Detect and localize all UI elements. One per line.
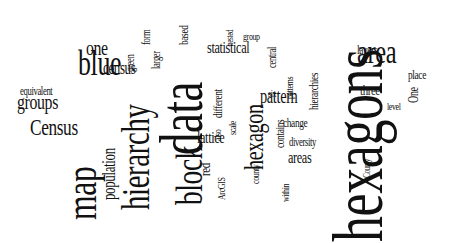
word-layers: layers — [357, 43, 377, 56]
word-county: County — [362, 159, 372, 178]
word-level: level — [387, 101, 401, 112]
word-scale: scale — [227, 121, 238, 135]
word-hierarchy: hierarchy — [116, 105, 156, 210]
word-different: different — [211, 89, 224, 118]
word-cloud: hexagonsdatamaphierarchyblockareabluehex… — [0, 0, 453, 243]
word-diversity: diversity — [289, 136, 316, 148]
word-map: map — [60, 167, 104, 220]
word-county: county — [250, 165, 261, 184]
word-form: form — [140, 30, 152, 45]
word-census: Census — [30, 115, 78, 139]
word-areas: areas — [288, 149, 311, 166]
word-larger: larger — [150, 51, 162, 69]
word-within: within — [280, 184, 291, 202]
word-group: group — [243, 31, 260, 42]
word-hierarchies: hierarchies — [307, 73, 320, 110]
word-six: six — [268, 88, 276, 99]
word-central: central — [266, 47, 278, 68]
word-arcgis: ArcGIS — [216, 178, 227, 200]
word-contains: contains — [273, 120, 286, 148]
word-also: also — [212, 130, 223, 141]
word-equivalent: equivalent — [20, 85, 52, 97]
word-one: one — [86, 37, 108, 59]
word-three: three — [360, 83, 380, 98]
word-green: green — [124, 55, 136, 72]
word-one: One — [407, 87, 421, 103]
word-population: population — [100, 148, 118, 200]
word-patterns: patterns — [284, 77, 295, 99]
word-hexagon: hexagon — [240, 104, 268, 170]
word-hexagons: hexagons — [322, 49, 394, 242]
word-red: red — [198, 163, 213, 176]
word-place: place — [408, 68, 426, 81]
word-based: based — [177, 25, 190, 45]
word-nested: nested — [225, 30, 235, 46]
